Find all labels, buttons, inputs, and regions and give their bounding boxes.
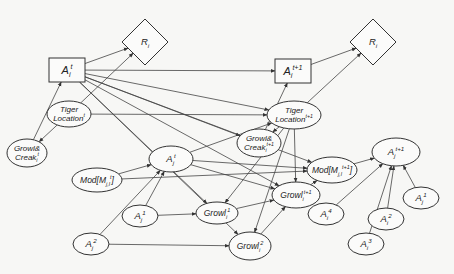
node-Aj_t: Ajt bbox=[149, 146, 193, 172]
node-R_right: Ri bbox=[350, 19, 396, 65]
node-Aj1_left: Aj1 bbox=[122, 205, 158, 227]
node-Mod_t: Mod[Mj,lt] bbox=[72, 168, 122, 192]
node-label: Tiger bbox=[285, 106, 303, 115]
edge-Growl1-to-Growl_t1 bbox=[236, 200, 274, 209]
node-label: Growl& bbox=[14, 144, 40, 153]
nodes-layer: RiAitTigerLocationtGrowl&CreakitMod[Mj,l… bbox=[7, 19, 439, 260]
node-Growl1: Growli1 bbox=[196, 202, 238, 224]
edge-Ai2-to-Aj_t1 bbox=[388, 166, 394, 208]
node-Ai_t1: Ait+1 bbox=[275, 59, 311, 83]
node-Mod_t1: Mod[Mj,lt+1] bbox=[307, 157, 357, 183]
edge-Mod_t-to-Mod_t1 bbox=[122, 171, 307, 179]
edge-Mod_t-to-Aj_t bbox=[119, 165, 152, 174]
node-Ai4: Ai4 bbox=[308, 203, 344, 225]
node-GC_t: Growl&Creakit bbox=[7, 139, 47, 167]
influence-diagram: RiAitTigerLocationtGrowl&CreakitMod[Mj,l… bbox=[0, 0, 454, 274]
edge-Ai_t1-to-R_right bbox=[311, 48, 356, 64]
node-label: Growli2 bbox=[237, 240, 264, 252]
diagram-svg: RiAitTigerLocationtGrowl&CreakitMod[Mj,l… bbox=[0, 0, 454, 274]
node-label: Mod[Mj,lt] bbox=[80, 174, 115, 186]
edge-Aj1_left-to-Growl1 bbox=[158, 214, 196, 215]
node-GC_t1: Growl&Creakit+1 bbox=[237, 129, 281, 157]
node-label: Locationt bbox=[53, 112, 85, 123]
edge-Growl_t1-to-Mod_t1 bbox=[311, 180, 317, 184]
node-label: Tiger bbox=[60, 105, 78, 114]
node-R_left: Ri bbox=[122, 19, 168, 65]
node-Aj_t1: Ajt+1 bbox=[372, 138, 420, 166]
edge-Aj2_left-to-Growl2 bbox=[109, 244, 229, 246]
edge-Tiger_t1-to-GC_t1 bbox=[273, 127, 280, 132]
node-label: Growli1 bbox=[204, 207, 231, 219]
node-Ai2: Ai2 bbox=[368, 208, 404, 230]
node-Tiger_t1: TigerLocationt+1 bbox=[267, 101, 321, 129]
edge-Tiger_t-to-Tiger_t1 bbox=[91, 114, 267, 115]
node-label: Creakit bbox=[15, 151, 40, 163]
edge-Tiger_t1-to-R_right bbox=[307, 53, 361, 103]
node-Ai3: Ai3 bbox=[348, 233, 384, 255]
node-Aj2_left: Aj2 bbox=[73, 233, 109, 255]
edge-Mod_t1-to-Aj_t1 bbox=[354, 158, 374, 164]
node-Tiger_t: TigerLocationt bbox=[47, 101, 91, 127]
edge-Tiger_t-to-GC_t bbox=[39, 125, 57, 142]
edge-Aj_t-to-Mod_t1 bbox=[193, 160, 307, 168]
edge-Aj1_right-to-Aj_t1 bbox=[403, 165, 415, 187]
edge-Ai_t-to-Tiger_t1 bbox=[85, 74, 269, 110]
node-Growl2: Growli2 bbox=[229, 232, 271, 260]
node-Growl_t1: Growlit+1 bbox=[272, 182, 320, 208]
node-Ai_t: Ait bbox=[49, 58, 85, 82]
edge-Ai_t-to-Ai_t1 bbox=[85, 70, 275, 71]
node-Aj1_right: Aj1 bbox=[403, 187, 439, 209]
edge-Ai_t-to-R_left bbox=[85, 48, 128, 63]
edge-Growl2-to-Growl_t1 bbox=[261, 207, 286, 234]
